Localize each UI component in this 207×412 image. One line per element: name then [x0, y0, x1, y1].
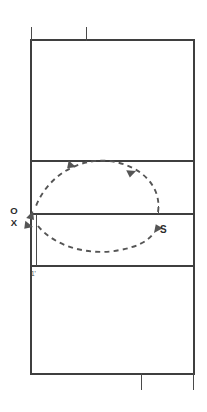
- label-player-o: O: [10, 205, 17, 216]
- court-diagram-svg: O X S 1': [0, 0, 207, 412]
- court-surface: [31, 40, 194, 374]
- court-diagram: O X S 1': [0, 0, 207, 412]
- label-distance-mark: 1': [31, 270, 36, 277]
- label-setter-s: S: [160, 224, 167, 235]
- label-player-x: X: [11, 217, 18, 228]
